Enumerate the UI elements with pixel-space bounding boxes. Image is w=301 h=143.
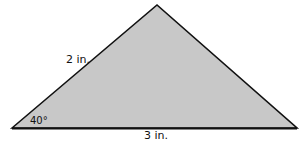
side-length-label: 2 in.: [66, 53, 90, 66]
base-length-label: 3 in.: [144, 129, 168, 142]
triangle-shape: [12, 5, 297, 128]
angle-label: 40°: [30, 115, 48, 126]
triangle-diagram: 2 in. 40° 3 in.: [0, 0, 301, 143]
triangle-figure: 2 in. 40° 3 in.: [0, 0, 301, 143]
